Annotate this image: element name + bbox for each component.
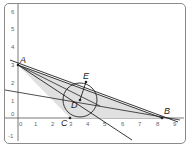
- label-c: C: [61, 118, 68, 128]
- y-tick-labels: -1 0 1 2 3 4 5 6: [8, 9, 15, 139]
- svg-text:6: 6: [121, 121, 125, 127]
- geometry-canvas: 0 1 2 3 4 5 6 7 8 9 -1 0 1 2 3 4 5 6 A B…: [0, 0, 188, 145]
- svg-text:1: 1: [34, 121, 38, 127]
- svg-text:8: 8: [156, 121, 160, 127]
- svg-text:5: 5: [11, 26, 15, 32]
- point-e: [85, 81, 88, 84]
- svg-text:0: 0: [11, 111, 15, 117]
- svg-text:9: 9: [173, 121, 177, 127]
- svg-text:3: 3: [11, 62, 15, 68]
- point-d: [79, 99, 82, 102]
- svg-text:2: 2: [11, 80, 15, 86]
- svg-text:2: 2: [51, 121, 55, 127]
- point-b: [161, 117, 164, 120]
- svg-text:-1: -1: [8, 133, 14, 139]
- label-e: E: [83, 71, 90, 81]
- label-a: A: [19, 55, 26, 65]
- svg-text:6: 6: [11, 9, 15, 15]
- svg-text:1: 1: [11, 98, 15, 104]
- point-c: [69, 117, 72, 120]
- label-b: B: [164, 106, 170, 116]
- x-tick-labels: 0 1 2 3 4 5 6 7 8 9: [19, 121, 177, 127]
- svg-text:4: 4: [86, 121, 90, 127]
- svg-text:4: 4: [11, 44, 15, 50]
- svg-text:0: 0: [19, 121, 23, 127]
- svg-text:3: 3: [69, 121, 73, 127]
- svg-text:7: 7: [138, 121, 142, 127]
- label-d: D: [71, 100, 78, 110]
- point-a: [17, 64, 20, 67]
